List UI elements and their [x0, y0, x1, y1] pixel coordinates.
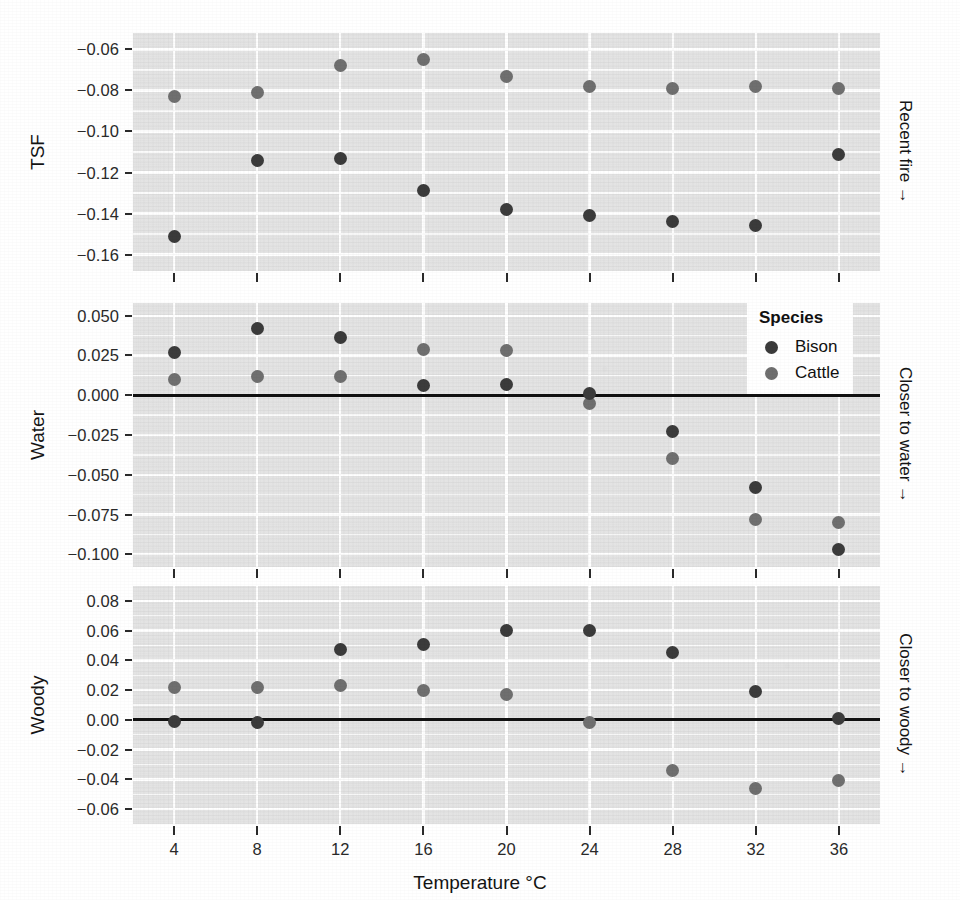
strip-label-woody: Closer to woody → — [895, 633, 915, 777]
x-axis-title: Temperature °C — [0, 872, 960, 894]
legend-key — [757, 367, 785, 380]
gridline-v — [339, 586, 341, 824]
legend-label: Cattle — [795, 363, 839, 383]
y-axis-tick-mark — [125, 689, 132, 691]
y-axis-tick-label: 0.00 — [86, 710, 119, 729]
data-point — [168, 373, 181, 386]
data-point — [168, 90, 181, 103]
data-point — [500, 624, 513, 637]
data-point — [334, 643, 347, 656]
x-axis-tick-mark — [506, 826, 508, 835]
data-point — [583, 624, 596, 637]
y-axis-tick-mark — [125, 808, 132, 810]
gridline-v — [838, 586, 840, 824]
data-point — [417, 379, 430, 392]
figure-panel-scatter: −0.06−0.08−0.10−0.12−0.14−0.16TSFRecent … — [0, 0, 960, 900]
y-axis-tick-label: 0.06 — [86, 621, 119, 640]
data-point — [251, 154, 264, 167]
x-axis-tick-label: 20 — [497, 840, 515, 859]
y-axis-tick-label: 0.02 — [86, 681, 119, 700]
data-point — [666, 764, 679, 777]
y-axis-tick-mark — [125, 749, 132, 751]
y-axis-title: Woody — [27, 676, 49, 735]
y-axis-tick-mark — [125, 778, 132, 780]
data-point — [417, 684, 430, 697]
x-axis-tick-mark — [589, 826, 591, 835]
data-point — [417, 343, 430, 356]
data-point — [251, 370, 264, 383]
data-point — [251, 716, 264, 729]
data-point — [500, 203, 513, 216]
x-axis-tick-label: 8 — [253, 840, 262, 859]
x-axis-tick-label: 32 — [747, 840, 765, 859]
x-axis-tick-mark — [838, 826, 840, 835]
x-axis-tick-mark — [339, 826, 341, 835]
x-axis-tick-mark — [672, 826, 674, 835]
plot-area-woody — [133, 586, 880, 824]
data-point — [334, 152, 347, 165]
legend-title: Species — [759, 308, 839, 328]
y-axis-tick-label: −0.06 — [77, 800, 119, 819]
x-axis-tick-label: 36 — [830, 840, 848, 859]
y-axis-tick-label: 0.08 — [86, 591, 119, 610]
legend-label: Bison — [795, 337, 838, 357]
data-point — [583, 716, 596, 729]
gridline-v — [672, 586, 674, 824]
data-point — [251, 681, 264, 694]
gridline-v — [588, 586, 590, 824]
gridline-v — [422, 586, 424, 824]
gridline-v — [256, 586, 258, 824]
y-axis-tick-label: −0.02 — [77, 740, 119, 759]
data-point — [417, 638, 430, 651]
data-point — [500, 688, 513, 701]
gridline-v — [505, 586, 507, 824]
x-axis-tick-label: 12 — [331, 840, 349, 859]
data-point — [583, 80, 596, 93]
data-point — [500, 70, 513, 83]
data-point — [251, 86, 264, 99]
data-point — [168, 715, 181, 728]
gridline-v — [173, 586, 175, 824]
y-axis-tick-label: 0.04 — [86, 651, 119, 670]
y-axis-tick-mark — [125, 659, 132, 661]
legend: SpeciesBisonCattle — [747, 302, 853, 394]
zero-reference-line — [133, 718, 880, 721]
legend-key — [757, 341, 785, 354]
data-point — [168, 681, 181, 694]
x-axis-tick-label: 16 — [414, 840, 432, 859]
data-point — [832, 774, 845, 787]
x-axis-tick-label: 28 — [664, 840, 682, 859]
cattle-marker-icon — [765, 367, 778, 380]
data-point — [749, 513, 762, 526]
bison-marker-icon — [765, 341, 778, 354]
y-axis-tick-label: −0.04 — [77, 770, 119, 789]
x-axis-tick-mark — [422, 826, 424, 835]
y-axis-tick-mark — [125, 719, 132, 721]
x-axis-tick-label: 24 — [580, 840, 598, 859]
legend-item-bison[interactable]: Bison — [757, 334, 839, 360]
data-point — [749, 685, 762, 698]
zero-reference-line — [133, 394, 880, 397]
x-axis-tick-mark — [755, 826, 757, 835]
data-point — [832, 148, 845, 161]
x-axis-tick-label: 4 — [169, 840, 178, 859]
data-point — [168, 230, 181, 243]
panel-woody: 0.080.060.040.020.00−0.02−0.04−0.06Woody… — [0, 0, 960, 900]
y-axis-tick-mark — [125, 630, 132, 632]
data-point — [334, 679, 347, 692]
x-axis-tick-mark — [256, 826, 258, 835]
x-axis-tick-mark — [173, 826, 175, 835]
data-point — [500, 378, 513, 391]
y-axis-tick-mark — [125, 600, 132, 602]
legend-item-cattle[interactable]: Cattle — [757, 360, 839, 386]
data-point — [168, 346, 181, 359]
data-point — [334, 370, 347, 383]
data-point — [417, 53, 430, 66]
data-point — [666, 646, 679, 659]
data-point — [251, 322, 264, 335]
data-point — [832, 712, 845, 725]
